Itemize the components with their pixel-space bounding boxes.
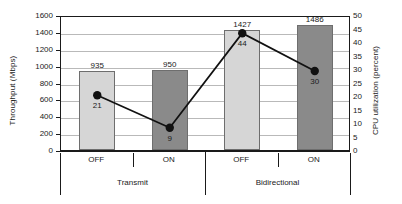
line-marker [311,67,319,75]
y-axis-right-tick-label: 0 [353,147,357,155]
y-axis-right-tick-label: 5 [353,134,357,142]
line-marker [93,91,101,99]
line-marker [238,29,246,37]
y-axis-right-tick-label: 15 [353,107,362,115]
line-marker [166,124,174,132]
y-axis-right-tick-label: 45 [353,26,362,34]
line-path [97,33,315,128]
category-separator [278,153,279,167]
y-axis-right-tick-label: 20 [353,93,362,101]
y-axis-left-tick-label: 1200 [35,46,53,54]
category-separator [350,153,351,195]
y-axis-left-tick-label: 1400 [35,29,53,37]
group-label: Bidirectional [228,178,328,187]
plot-area: 93595014271486 2194430 [60,16,350,151]
y-axis-left-tick-label: 1000 [35,63,53,71]
line-point-value-label: 30 [295,78,335,86]
y-axis-left-tick-label: 1600 [35,12,53,20]
y-axis-right-tick-label: 40 [353,39,362,47]
group-labels-row: TransmitBidirectional [60,178,350,194]
y-axis-right-tick-label: 35 [353,53,362,61]
y-axis-left-tick-label: 600 [40,96,53,104]
y-axis-left-tick-label: 200 [40,130,53,138]
chart-container: Throughput (Mbps) CPU utilization (perce… [0,0,402,204]
y-axis-left-ticks: 16001400120010008006004002000 [22,0,56,204]
category-label: ON [289,155,339,164]
line-point-value-label: 9 [150,135,190,143]
line-point-value-label: 44 [222,40,262,48]
category-separator [133,153,134,167]
y-axis-left-title: Throughput (Mbps) [8,36,17,146]
y-axis-left-tick-label: 800 [40,80,53,88]
category-label: ON [144,155,194,164]
y-axis-right-tick-label: 10 [353,120,362,128]
y-axis-right-tick-label: 30 [353,66,362,74]
y-axis-left-tick-label: 0 [49,147,53,155]
group-label: Transmit [83,178,183,187]
y-axis-left-tick-label: 400 [40,113,53,121]
category-label: OFF [216,155,266,164]
category-label: OFF [71,155,121,164]
line-point-value-label: 21 [77,102,117,110]
y-axis-right-ticks: 50454035302520151050 [350,0,384,204]
y-axis-right-tick-label: 50 [353,12,362,20]
category-labels-row: OFFONOFFON [60,153,350,169]
y-axis-right-tick-label: 25 [353,80,362,88]
